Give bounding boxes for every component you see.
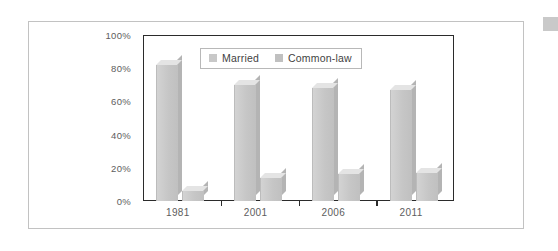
y-axis-tick-label: 100% [106,30,132,41]
bar-married-2001 [234,85,255,201]
bar-common-law-1981 [182,191,203,201]
bar-front-face [416,173,438,201]
legend-swatch-common-law [275,54,283,62]
legend-label-married: Married [222,52,259,64]
x-axis-tick-mark [221,201,222,206]
chart-legend: Married Common-law [200,48,362,69]
y-axis-tick-label: 40% [111,129,131,140]
bar-common-law-2011 [416,173,437,201]
y-axis-tick-label: 80% [111,63,131,74]
bar-common-law-2006 [338,174,359,201]
x-axis-label-1981: 1981 [166,207,190,218]
bar-front-face [312,88,334,201]
bar-married-2006 [312,88,333,201]
legend-swatch-married [209,54,217,62]
bar-front-face [156,65,178,201]
x-axis-label-2001: 2001 [244,207,268,218]
y-axis: 100%80%60%40%20%0% [67,35,139,201]
y-axis-tick-label: 0% [117,196,131,207]
figure-root: 100%80%60%40%20%0% Married Common-law 19… [0,0,558,251]
bar-married-2011 [390,90,411,201]
bar-married-1981 [156,65,177,201]
x-axis-label-2006: 2006 [321,207,345,218]
figure-border: 100%80%60%40%20%0% Married Common-law 19… [28,21,524,229]
bar-common-law-2001 [260,178,281,201]
x-axis-tick-mark [299,201,300,206]
bar-front-face [260,178,282,201]
bar-front-face [390,90,412,201]
x-axis-label-2011: 2011 [400,207,423,218]
bar-chart: 100%80%60%40%20%0% Married Common-law 19… [29,22,525,230]
bar-front-face [234,85,256,201]
legend-item-married: Married [209,52,259,64]
y-axis-tick-label: 20% [111,162,131,173]
corner-mark [543,17,558,31]
y-axis-tick-label: 60% [111,96,131,107]
legend-label-common-law: Common-law [288,52,352,64]
legend-item-common-law: Common-law [275,52,352,64]
x-axis-tick-mark [376,201,377,206]
bar-front-face [338,174,360,201]
bar-front-face [182,191,204,201]
